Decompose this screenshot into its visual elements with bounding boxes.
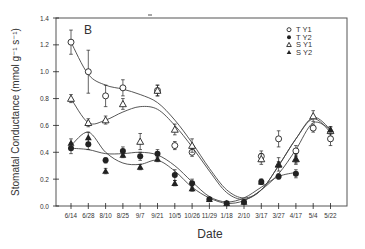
y-tick-label: 0.6 — [40, 122, 49, 129]
fit-curves — [71, 42, 331, 203]
fit-curve — [71, 99, 331, 200]
filled-triangle-icon — [85, 134, 92, 140]
y-tick-label: 1.4 — [40, 15, 49, 22]
x-tick-label: 11/29 — [202, 212, 218, 219]
filled-triangle-icon — [287, 50, 292, 54]
open-triangle-icon — [171, 126, 178, 132]
data-points — [68, 30, 334, 206]
y-tick-label: 1.2 — [40, 41, 49, 48]
x-tick-label: 6/28 — [82, 212, 95, 219]
open-triangle-icon — [102, 117, 109, 123]
filled-circle-icon — [276, 173, 282, 179]
filled-triangle-icon — [102, 168, 109, 174]
fit-curve — [71, 42, 331, 198]
x-tick-label: 6/14 — [65, 212, 78, 219]
open-triangle-icon — [287, 42, 292, 46]
open-circle-icon — [103, 93, 109, 99]
filled-circle-icon — [287, 35, 291, 39]
x-tick-label: 8/10 — [99, 212, 112, 219]
y-tick-label: 1.0 — [40, 68, 49, 75]
open-triangle-icon — [137, 138, 144, 144]
filled-circle-icon — [137, 153, 143, 159]
filled-circle-icon — [103, 157, 109, 163]
x-axis-label: Date — [197, 227, 223, 241]
filled-triangle-icon — [292, 156, 299, 162]
y-tick-label: 0.0 — [40, 203, 49, 210]
x-tick-label: 3/17 — [255, 212, 268, 219]
x-tick-label: 3/27 — [272, 212, 285, 219]
filled-triangle-icon — [189, 185, 196, 191]
x-tick-label: 2/10 — [238, 212, 251, 219]
open-circle-icon — [328, 136, 334, 142]
y-tick-label: 0.8 — [40, 95, 49, 102]
open-circle-icon — [68, 39, 74, 45]
y-axis-label: Stomatal Conductance (mmol g⁻¹ s⁻¹) — [10, 28, 21, 196]
x-tick-label: 5/22 — [324, 212, 337, 219]
open-circle-icon — [276, 136, 282, 142]
legend: T Y1T Y2S Y1S Y2 — [287, 25, 312, 57]
x-tick-label: 8/25 — [117, 212, 130, 219]
x-tick-label: 5/4 — [309, 212, 318, 219]
open-triangle-icon — [310, 113, 317, 119]
open-circle-icon — [310, 125, 316, 131]
series-s-y2 — [68, 126, 334, 206]
x-tick-label: 4/17 — [290, 212, 303, 219]
filled-triangle-icon — [171, 180, 178, 186]
open-triangle-icon — [119, 100, 126, 106]
x-tick-label: 10/5 — [169, 212, 182, 219]
panel-label: B — [84, 23, 92, 37]
x-tick-label: 1/18 — [221, 212, 234, 219]
x-axis: 6/146/288/108/259/79/2110/510/2611/291/1… — [65, 203, 337, 219]
open-circle-icon — [120, 85, 126, 91]
x-tick-label: 10/26 — [184, 212, 200, 219]
open-circle-icon — [293, 148, 299, 154]
open-triangle-icon — [68, 95, 75, 101]
stomatal-conductance-chart: 0.00.20.40.60.81.01.21.4 6/146/288/108/2… — [0, 0, 365, 249]
y-tick-label: 0.2 — [40, 176, 49, 183]
open-circle-icon — [85, 69, 91, 75]
x-tick-label: 9/7 — [136, 212, 145, 219]
legend-item-s-y2: S Y2 — [287, 48, 312, 57]
y-tick-label: 0.4 — [40, 149, 49, 156]
open-circle-icon — [287, 28, 291, 32]
filled-circle-icon — [172, 172, 178, 178]
filled-circle-icon — [293, 171, 299, 177]
x-tick-label: 9/21 — [151, 212, 164, 219]
open-circle-icon — [172, 143, 178, 149]
fit-curve — [71, 122, 331, 203]
legend-label: S Y2 — [296, 48, 312, 57]
